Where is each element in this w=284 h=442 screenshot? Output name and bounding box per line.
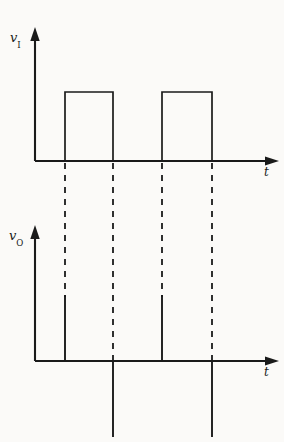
upper-y-axis-label-subscript: I bbox=[17, 40, 20, 50]
upper-plot-group bbox=[30, 27, 279, 166]
lower-y-axis-label-subscript: O bbox=[16, 238, 23, 248]
input-waveform-trace bbox=[35, 92, 268, 161]
upper-y-axis-label: vI bbox=[10, 31, 21, 47]
waveform-figure: vI t vO t bbox=[0, 0, 284, 442]
lower-y-axis-label: vO bbox=[9, 229, 23, 245]
lower-y-axis-arrowhead bbox=[30, 225, 39, 239]
figure-canvas bbox=[0, 0, 284, 442]
upper-y-axis-arrowhead bbox=[30, 27, 39, 41]
lower-x-axis-label: t bbox=[264, 366, 269, 378]
upper-x-axis-label: t bbox=[264, 166, 269, 178]
alignment-guides-group bbox=[65, 163, 212, 361]
lower-plot-group bbox=[30, 225, 279, 437]
